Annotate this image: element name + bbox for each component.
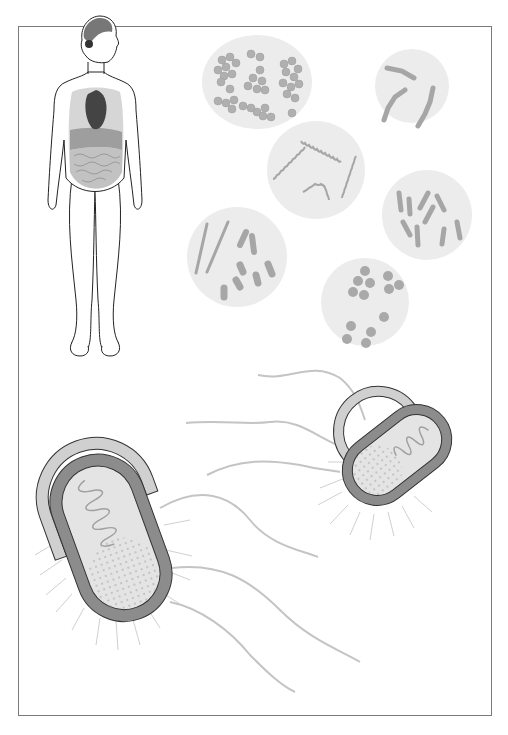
- culture-streptobacilli: [375, 49, 449, 126]
- human-body-figure: [48, 16, 142, 356]
- culture-spirochetes: [267, 121, 365, 219]
- culture-diplococci: [321, 258, 409, 348]
- flagella: [160, 371, 365, 692]
- culture-long-rods-coccobacilli: [187, 207, 287, 307]
- illustration-canvas: [0, 0, 508, 735]
- bacterium-large: [19, 421, 196, 640]
- culture-bacilli: [382, 170, 472, 260]
- culture-cocci-clusters: [202, 35, 312, 129]
- bacterium-small: [304, 359, 466, 520]
